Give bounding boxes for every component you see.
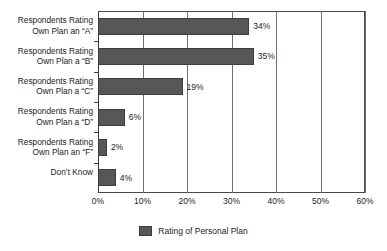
legend: Rating of Personal Plan — [0, 226, 387, 236]
value-axis-tick-label: 60% — [356, 196, 373, 206]
bar-row: 19% — [98, 78, 365, 95]
bar[interactable] — [98, 18, 249, 35]
bar[interactable] — [98, 169, 116, 186]
category-label: Respondents Rating Own Plan a “B” — [0, 46, 93, 67]
legend-swatch-icon — [139, 226, 152, 236]
bar-value-label: 19% — [187, 83, 204, 92]
bar[interactable] — [98, 139, 107, 156]
value-axis-tick-label: 0% — [92, 196, 104, 206]
bar-value-label: 34% — [253, 22, 270, 31]
bar-row: 34% — [98, 18, 365, 35]
bar[interactable] — [98, 109, 125, 126]
bar-value-label: 6% — [129, 113, 141, 122]
bar-row: 2% — [98, 139, 365, 156]
bar-value-label: 4% — [120, 174, 132, 183]
category-label: Respondents Rating Own Plan an “F” — [0, 137, 93, 158]
category-label: Respondents Rating Own Plan a “D” — [0, 106, 93, 127]
value-axis-tick-label: 20% — [178, 196, 195, 206]
bar-row: 35% — [98, 48, 365, 65]
bar[interactable] — [98, 48, 254, 65]
value-axis-tick-label: 40% — [267, 196, 284, 206]
value-axis-tick-label: 10% — [134, 196, 151, 206]
category-label: Respondents Rating Own Plan an “A” — [0, 15, 93, 36]
category-label: Don’t Know — [0, 167, 93, 178]
legend-label: Rating of Personal Plan — [158, 226, 247, 236]
bar-value-label: 2% — [111, 143, 123, 152]
bar-rows: 34%35%19%6%2%4% — [98, 11, 365, 193]
bar[interactable] — [98, 78, 183, 95]
bar-row: 6% — [98, 109, 365, 126]
value-axis-labels: 0%10%20%30%40%50%60% — [98, 196, 365, 210]
category-axis-labels: Respondents Rating Own Plan an “A” Respo… — [0, 11, 93, 193]
plot-area: 34%35%19%6%2%4% — [98, 11, 365, 193]
value-axis-tick-label: 30% — [223, 196, 240, 206]
category-label: Respondents Rating Own Plan a “C” — [0, 76, 93, 97]
bar-row: 4% — [98, 169, 365, 186]
gridline — [365, 11, 366, 193]
value-axis-tick-label: 50% — [312, 196, 329, 206]
bar-chart: Respondents Rating Own Plan an “A” Respo… — [0, 0, 387, 251]
bar-value-label: 35% — [258, 52, 275, 61]
